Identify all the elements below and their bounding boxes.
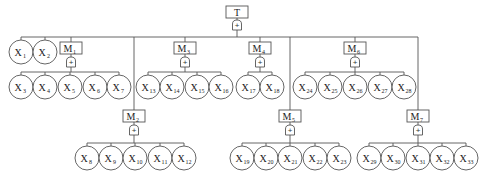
- event-label-subscript: 5: [292, 117, 295, 123]
- or-gate-icon: +: [256, 57, 265, 67]
- event-label: X: [308, 153, 316, 164]
- event-label-subscript: 10: [137, 159, 143, 165]
- event-label: X: [214, 82, 222, 93]
- event-label-subscript: 21: [292, 159, 298, 165]
- or-gate-icon: +: [181, 57, 190, 67]
- basic-event-x33: X33: [454, 146, 478, 170]
- event-label: X: [38, 82, 46, 93]
- event-label: X: [14, 82, 22, 93]
- intermediate-event-m1: M1: [60, 42, 82, 55]
- event-label: X: [190, 82, 198, 93]
- event-label-subscript: 3: [23, 88, 26, 94]
- intermediate-event-top: T: [226, 6, 248, 18]
- event-label-subscript: 17: [250, 88, 256, 94]
- event-label-subscript: 22: [317, 159, 323, 165]
- event-label: X: [397, 82, 405, 93]
- basic-event-x1: X1: [9, 40, 33, 64]
- basic-event-x23: X23: [327, 146, 351, 170]
- event-label-subscript: 9: [113, 159, 116, 165]
- event-label: X: [373, 82, 381, 93]
- basic-event-x4: X4: [33, 75, 57, 99]
- event-label-subscript: 7: [420, 117, 423, 123]
- event-label: M: [283, 111, 292, 122]
- event-label-subscript: 4: [262, 49, 265, 55]
- basic-event-x29: X29: [357, 146, 381, 170]
- event-label-subscript: 2: [136, 117, 139, 123]
- fault-tree-diagram: T+X1X2M1+X3X4X5X6X7M2+X8X9X10X11X12M3+X1…: [0, 0, 487, 176]
- event-label: X: [153, 153, 161, 164]
- event-label: X: [348, 82, 356, 93]
- event-label-subscript: 12: [186, 159, 192, 165]
- basic-event-x8: X8: [75, 146, 99, 170]
- event-label-subscript: 6: [97, 88, 100, 94]
- or-gate-icon: +: [233, 20, 242, 30]
- event-label-subscript: 16: [223, 88, 229, 94]
- basic-event-x25: X25: [318, 75, 342, 99]
- intermediate-event-m6: M6: [344, 42, 366, 55]
- event-label-subscript: 25: [332, 88, 338, 94]
- basic-event-x3: X3: [9, 75, 33, 99]
- event-label-subscript: 24: [307, 88, 313, 94]
- event-label-subscript: 13: [150, 88, 156, 94]
- basic-event-x11: X11: [148, 146, 172, 170]
- event-label-subscript: 30: [395, 159, 401, 165]
- event-label: X: [177, 153, 185, 164]
- event-label: M: [411, 111, 420, 122]
- intermediate-event-m3: M3: [174, 42, 196, 55]
- event-label: M: [348, 43, 357, 54]
- event-label-subscript: 29: [371, 159, 377, 165]
- event-label: X: [459, 153, 467, 164]
- event-label: X: [38, 47, 46, 58]
- event-label: X: [332, 153, 340, 164]
- event-label: M: [253, 43, 262, 54]
- basic-event-x30: X30: [381, 146, 405, 170]
- basic-event-x19: X19: [230, 146, 254, 170]
- basic-event-x31: X31: [406, 146, 430, 170]
- basic-event-x21: X21: [278, 146, 302, 170]
- event-label-subscript: 19: [244, 159, 250, 165]
- svg-text:+: +: [353, 58, 358, 67]
- event-label: X: [141, 82, 149, 93]
- event-label: X: [411, 153, 419, 164]
- basic-event-x5: X5: [58, 75, 82, 99]
- svg-text:+: +: [258, 58, 263, 67]
- event-label: X: [88, 82, 96, 93]
- event-label-subscript: 5: [72, 88, 75, 94]
- event-label-subscript: 33: [468, 159, 474, 165]
- basic-event-x6: X6: [83, 75, 107, 99]
- basic-event-x26: X26: [343, 75, 367, 99]
- event-label-subscript: 15: [199, 88, 205, 94]
- event-label: X: [241, 82, 249, 93]
- basic-event-x24: X24: [293, 75, 317, 99]
- event-label: X: [235, 153, 243, 164]
- event-label-subscript: 6: [357, 49, 360, 55]
- intermediate-event-m2: M2: [123, 110, 145, 123]
- basic-event-x14: X14: [160, 75, 184, 99]
- basic-event-x18: X18: [260, 75, 284, 99]
- event-label-subscript: 18: [274, 88, 280, 94]
- basic-event-x16: X16: [209, 75, 233, 99]
- intermediate-event-m4: M4: [249, 42, 271, 55]
- event-label: X: [259, 153, 267, 164]
- event-label-subscript: 31: [420, 159, 426, 165]
- event-label: X: [386, 153, 394, 164]
- event-label: X: [435, 153, 443, 164]
- event-label-subscript: 11: [162, 159, 168, 165]
- event-label-subscript: 1: [73, 49, 76, 55]
- intermediate-event-m5: M5: [279, 110, 301, 123]
- svg-text:+: +: [416, 126, 421, 135]
- basic-event-x7: X7: [107, 75, 131, 99]
- event-label-subscript: 2: [47, 53, 50, 59]
- basic-event-x17: X17: [236, 75, 260, 99]
- event-label-subscript: 14: [174, 88, 180, 94]
- event-label: X: [104, 153, 112, 164]
- event-label: X: [265, 82, 273, 93]
- event-label: M: [64, 43, 73, 54]
- fault-tree-svg: T+X1X2M1+X3X4X5X6X7M2+X8X9X10X11X12M3+X1…: [0, 0, 487, 176]
- svg-text:+: +: [132, 126, 137, 135]
- event-label: M: [178, 43, 187, 54]
- event-label: X: [165, 82, 173, 93]
- or-gate-icon: +: [286, 125, 295, 135]
- event-label-subscript: 23: [341, 159, 347, 165]
- event-label: X: [283, 153, 291, 164]
